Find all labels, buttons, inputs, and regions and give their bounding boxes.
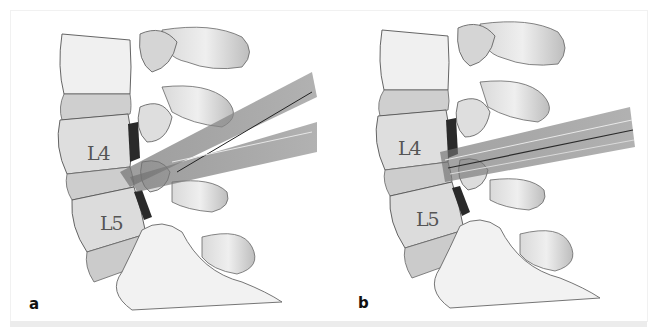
- vertebra-label-l4: L4: [87, 142, 110, 164]
- panel-b: L4 L5 b: [330, 12, 646, 312]
- figure-bottom-border: [10, 321, 647, 327]
- spine-illustration-b: [330, 12, 646, 312]
- spine-illustration-a: [12, 12, 328, 312]
- panel-a: L4 L5 a: [12, 12, 328, 312]
- panel-label-b: b: [358, 294, 369, 312]
- vertebra-label-l5: L5: [100, 212, 123, 234]
- vertebra-label-l5: L5: [416, 208, 439, 230]
- panel-label-a: a: [29, 295, 39, 313]
- vertebra-label-l4: L4: [398, 137, 421, 159]
